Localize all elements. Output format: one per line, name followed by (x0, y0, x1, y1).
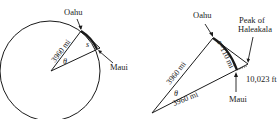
peak-arrowhead (247, 59, 251, 64)
peak-pointer (248, 37, 253, 61)
height-label: 10,023 ft (246, 74, 277, 84)
arc-s-label: s (86, 40, 89, 49)
maui-label: Maui (110, 62, 129, 72)
tangent-line (81, 31, 100, 48)
oahu-arrowhead (209, 32, 213, 37)
radius-label: 3960 mi (49, 37, 73, 64)
arc-label: s=110 mi (215, 39, 236, 70)
peak-label-line2: Haleakala (238, 24, 272, 34)
left-diagram: Oahu Maui 3960 mi θ s (0, 7, 129, 119)
theta-label: θ (63, 57, 67, 66)
earth-circle (0, 21, 100, 119)
diagram-canvas: Oahu Maui 3960 mi θ s Oahu Peak of Halea… (0, 0, 279, 119)
oahu-label: Oahu (64, 7, 83, 17)
side-to-peak (152, 64, 248, 113)
maui-label: Maui (229, 94, 248, 104)
right-diagram: Oahu Peak of Haleakala 10,023 ft Maui 39… (152, 10, 277, 113)
oahu-label: Oahu (193, 10, 212, 20)
theta-label: θ (174, 89, 178, 98)
maui-arrowhead (234, 72, 238, 77)
oahu-arrowhead (79, 26, 83, 31)
